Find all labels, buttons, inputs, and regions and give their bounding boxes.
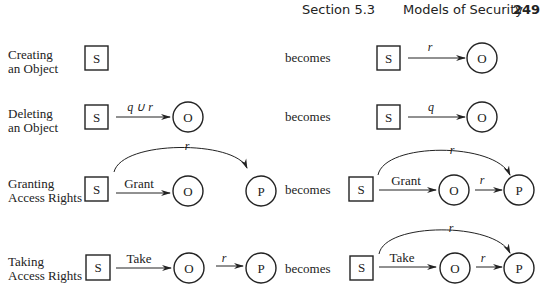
edge-label: r <box>481 251 486 265</box>
node-label: O <box>183 110 192 125</box>
node-label: O <box>477 110 486 125</box>
node-label: P <box>515 261 522 276</box>
edge-label: r <box>185 139 190 153</box>
edge-curve <box>114 147 247 172</box>
edge-label: r <box>480 173 485 187</box>
node-label: O <box>449 183 458 198</box>
edge-curve <box>378 150 510 175</box>
take-grant-rules-diagram: S S O S O S O S O P S O P S O P S O P r … <box>0 0 545 294</box>
edge-label: r <box>450 143 455 157</box>
node-label: S <box>385 51 392 66</box>
node-label: O <box>477 51 486 66</box>
taking-after <box>350 230 534 283</box>
node-label: S <box>385 110 392 125</box>
node-label: S <box>93 182 100 197</box>
edge-label: Take <box>126 251 151 266</box>
node-label: O <box>183 184 192 199</box>
node-label: S <box>93 110 100 125</box>
taking-before <box>86 253 276 283</box>
edge-label: Grant <box>391 173 421 188</box>
edge-label: r <box>428 40 433 54</box>
edge-label: q ∪ r <box>127 100 153 114</box>
node-label: S <box>357 182 364 197</box>
edge-label: Take <box>389 250 414 265</box>
node-label: P <box>257 184 264 199</box>
node-label: O <box>184 261 193 276</box>
edge-label: r <box>222 251 227 265</box>
granting-before <box>85 147 276 206</box>
granting-after <box>349 150 534 205</box>
edge-label: q <box>428 100 434 114</box>
node-label: P <box>515 183 522 198</box>
node-label: S <box>358 260 365 275</box>
node-label: O <box>450 261 459 276</box>
node-label: S <box>94 260 101 275</box>
edge-label: r <box>449 221 454 235</box>
node-label: S <box>93 51 100 66</box>
edge-label: Grant <box>124 176 154 191</box>
node-label: P <box>257 261 264 276</box>
